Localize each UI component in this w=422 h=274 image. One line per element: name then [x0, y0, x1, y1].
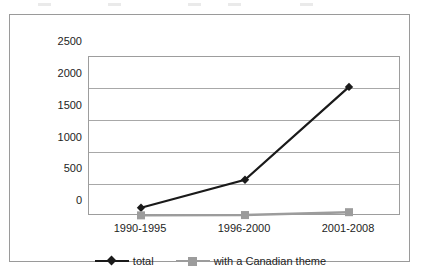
diamond-marker-icon [95, 255, 129, 267]
chart-legend: total with a Canadian theme [10, 255, 411, 267]
data-point-0-0[interactable] [137, 204, 145, 212]
scan-artifact-strip [0, 0, 422, 10]
x-tick-1996-2000: 1996-2000 [218, 222, 271, 234]
y-tick-2500: 2500 [58, 36, 82, 47]
data-point-1-1[interactable] [241, 211, 249, 219]
y-tick-500: 500 [64, 163, 82, 174]
y-tick-1000: 1000 [58, 132, 82, 143]
y-tick-0: 0 [76, 195, 82, 206]
legend-item-total[interactable]: total [95, 255, 154, 267]
x-tick-1990-1995: 1990-1995 [114, 222, 167, 234]
y-tick-1500: 1500 [58, 100, 82, 111]
chart-frame: 2500 2000 1500 1000 500 0 1990-1995 1996… [9, 14, 410, 262]
legend-label-canadian-theme: with a Canadian theme [214, 255, 327, 267]
series-line-0 [141, 87, 349, 208]
legend-item-canadian-theme[interactable]: with a Canadian theme [176, 255, 327, 267]
chart-figure: 2500 2000 1500 1000 500 0 1990-1995 1996… [0, 0, 422, 274]
plot-area [88, 56, 400, 215]
data-point-1-2[interactable] [345, 208, 353, 216]
data-point-1-0[interactable] [137, 211, 145, 219]
y-axis-tick-labels: 2500 2000 1500 1000 500 0 [36, 15, 82, 261]
y-tick-2000: 2000 [58, 68, 82, 79]
square-marker-icon [176, 255, 210, 267]
x-tick-2001-2008: 2001-2008 [322, 222, 375, 234]
legend-label-total: total [133, 255, 154, 267]
data-series-layer [89, 57, 401, 216]
